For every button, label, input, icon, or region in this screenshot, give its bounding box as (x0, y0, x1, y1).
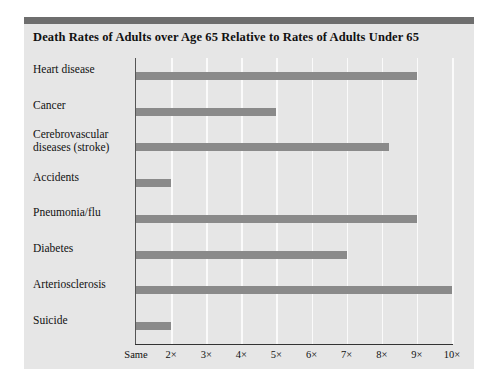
category-label: Arteriosclerosis (33, 278, 133, 291)
category-label-line: Diabetes (33, 242, 133, 255)
category-label: Diabetes (33, 242, 133, 255)
gridline (206, 58, 208, 344)
bar (136, 72, 417, 80)
bar (136, 286, 452, 294)
category-label: Suicide (33, 314, 133, 327)
gridline (347, 58, 349, 344)
category-label-line: Accidents (33, 171, 133, 184)
plot-area (136, 58, 452, 344)
category-label: Cerebrovasculardiseases (stroke) (33, 128, 133, 154)
gridline (312, 58, 314, 344)
gridline (382, 58, 384, 344)
bar (136, 215, 417, 223)
category-axis-labels: Heart diseaseCancerCerebrovasculardiseas… (33, 0, 129, 385)
x-axis-line (135, 344, 453, 345)
category-label: Cancer (33, 99, 133, 112)
chart-figure: Death Rates of Adults over Age 65 Relati… (0, 0, 498, 385)
gridline (417, 58, 419, 344)
gridline (241, 58, 243, 344)
category-label-line: Pneumonia/flu (33, 206, 133, 219)
bar (136, 108, 276, 116)
gridline (276, 58, 278, 344)
gridline (452, 58, 454, 344)
category-label-line: Cancer (33, 99, 133, 112)
category-label-line: Arteriosclerosis (33, 278, 133, 291)
category-label-line: Heart disease (33, 63, 133, 76)
bar (136, 179, 171, 187)
bar (136, 251, 347, 259)
gridline (171, 58, 173, 344)
category-label-line: diseases (stroke) (33, 141, 133, 154)
bar (136, 322, 171, 330)
y-axis-line (135, 58, 136, 345)
category-label: Heart disease (33, 63, 133, 76)
category-label: Pneumonia/flu (33, 206, 133, 219)
bar (136, 143, 389, 151)
x-tick-label: 10× (427, 349, 477, 360)
category-label: Accidents (33, 171, 133, 184)
category-label-line: Suicide (33, 314, 133, 327)
category-label-line: Cerebrovascular (33, 128, 133, 141)
